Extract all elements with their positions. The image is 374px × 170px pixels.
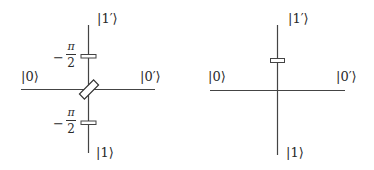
right-diagram [210,25,345,155]
left-label-bottom: |1⟩ [96,146,114,159]
left-label-left: |0⟩ [21,70,39,83]
bottom-phase-bar [66,120,76,121]
bottom-phase-plate [81,121,96,125]
left-label-top: |1′⟩ [97,12,118,25]
right-label-top: |1′⟩ [288,12,309,25]
bottom-phase-sign: − [53,116,64,131]
top-phase-denominator: 2 [66,56,76,70]
bottom-phase-fraction: π 2 [66,106,76,136]
right-label-left: |0⟩ [208,70,226,83]
top-phase-plate [81,55,96,59]
right-label-right: |0′⟩ [336,70,357,83]
right-phase-plate [271,59,285,63]
bottom-phase-denominator: 2 [66,122,76,136]
bottom-phase-numerator: π [66,106,76,119]
top-phase-sign: − [53,50,64,65]
right-label-bottom: |1⟩ [286,146,304,159]
diagram-canvas [0,0,374,170]
left-label-right: |0′⟩ [140,70,161,83]
left-diagram [21,25,155,153]
top-phase-numerator: π [66,40,76,53]
top-phase-bar [66,54,76,55]
top-phase-fraction: π 2 [66,40,76,70]
